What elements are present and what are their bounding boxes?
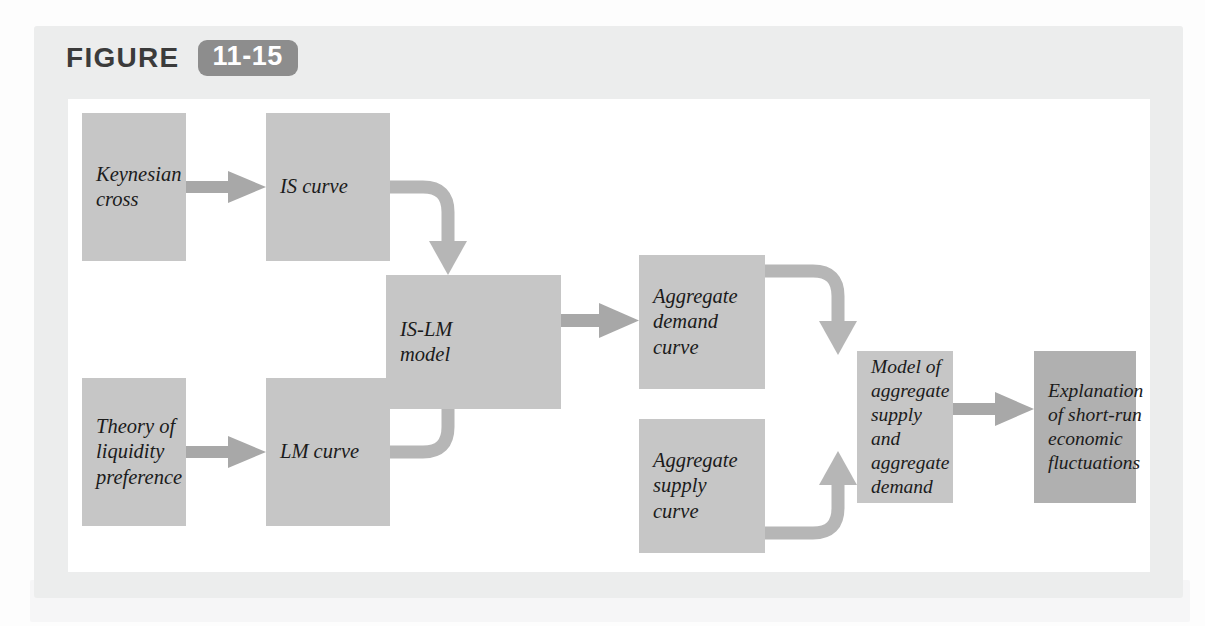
node-label: Theory of liquidity preference	[96, 414, 182, 490]
diagram-canvas: Keynesian cross IS curve Theory of liqui…	[68, 99, 1150, 572]
node-label: Aggregate demand curve	[653, 284, 738, 360]
figure-caption-word: FIGURE	[66, 42, 180, 74]
connector-layer	[68, 99, 1150, 572]
node-aggregate-supply-curve[interactable]: Aggregate supply curve	[639, 419, 765, 553]
node-label: LM curve	[280, 439, 359, 464]
edge-is-lm-model-to-ad-curve	[561, 303, 639, 338]
node-label: Explanation of short-run economic fluctu…	[1048, 379, 1143, 475]
edge-ad-curve-to-as-ad-model	[765, 271, 857, 355]
figure-header: FIGURE 11-15	[66, 38, 298, 78]
node-model-of-aggregate-supply-and-aggregate-demand[interactable]: Model of aggregate supply and aggregate …	[857, 351, 953, 503]
edge-is-curve-to-is-lm-model	[390, 187, 467, 275]
node-aggregate-demand-curve[interactable]: Aggregate demand curve	[639, 255, 765, 389]
node-is-lm-model[interactable]: IS-LM model	[386, 275, 561, 409]
node-label: IS curve	[280, 174, 348, 199]
node-label: Model of aggregate supply and aggregate …	[871, 355, 949, 499]
edge-theory-liquidity-to-lm-curve	[186, 436, 266, 468]
edge-as-curve-to-as-ad-model	[765, 451, 857, 533]
edge-as-ad-model-to-explanation	[953, 392, 1034, 426]
node-lm-curve[interactable]: LM curve	[266, 378, 390, 526]
node-label: Aggregate supply curve	[653, 448, 738, 524]
node-label: IS-LM model	[400, 317, 452, 367]
node-explanation-of-short-run-economic-fluctuations[interactable]: Explanation of short-run economic fluctu…	[1034, 351, 1136, 503]
node-is-curve[interactable]: IS curve	[266, 113, 390, 261]
node-label: Keynesian cross	[96, 162, 181, 212]
figure-number-badge: 11-15	[198, 40, 298, 76]
edge-keynesian-cross-to-is-curve	[186, 171, 266, 203]
node-keynesian-cross[interactable]: Keynesian cross	[82, 113, 186, 261]
node-theory-of-liquidity-preference[interactable]: Theory of liquidity preference	[82, 378, 186, 526]
textbook-figure-page: FIGURE 11-15	[0, 0, 1205, 626]
